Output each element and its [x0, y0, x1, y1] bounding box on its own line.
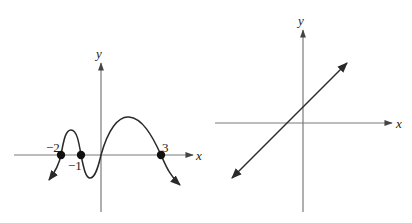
zero-label-neg2: −2 [46, 140, 60, 155]
right-graph: y x [215, 13, 402, 212]
left-x-label: x [195, 148, 202, 163]
zero-label-neg1: −1 [68, 158, 82, 173]
zero-label-3: 3 [162, 140, 169, 155]
left-graph: y x −2 −1 3 [14, 46, 202, 212]
diagram-canvas: y x −2 −1 3 y x [0, 0, 412, 223]
right-y-label: y [296, 13, 304, 28]
left-y-label: y [94, 46, 102, 61]
linear-line [232, 63, 347, 178]
right-x-label: x [395, 116, 402, 131]
